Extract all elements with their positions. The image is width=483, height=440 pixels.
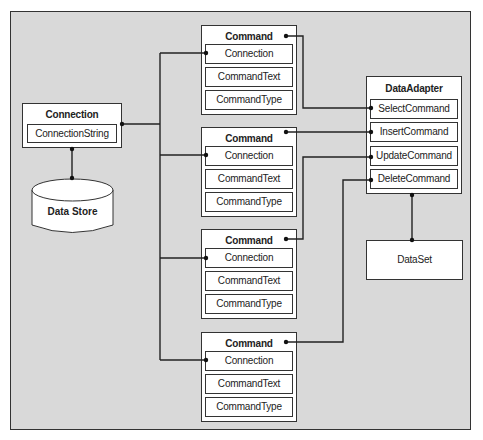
- command-text-field: CommandText: [205, 169, 293, 189]
- update-command-field: UpdateCommand: [370, 146, 458, 166]
- command-connection-field: Connection: [205, 146, 293, 166]
- command-title: Command: [202, 133, 296, 144]
- command-type-field: CommandType: [205, 90, 293, 110]
- data-adapter-title: DataAdapter: [367, 83, 461, 94]
- command-text-field: CommandText: [205, 271, 293, 291]
- connection-string-field: ConnectionString: [27, 124, 117, 143]
- command-type-field: CommandType: [205, 397, 293, 417]
- command-box-4: Command Connection CommandText CommandTy…: [201, 332, 297, 422]
- command-text-field: CommandText: [205, 374, 293, 394]
- connection-title: Connection: [23, 109, 121, 120]
- command-box-3: Command Connection CommandText CommandTy…: [201, 229, 297, 319]
- select-command-field: SelectCommand: [370, 99, 458, 119]
- data-store-label: Data Store: [32, 206, 113, 217]
- command-connection-field: Connection: [205, 248, 293, 268]
- command-title: Command: [202, 338, 296, 349]
- connection-box: Connection ConnectionString: [22, 103, 122, 148]
- insert-command-field: InsertCommand: [370, 122, 458, 142]
- command-connection-field: Connection: [205, 351, 293, 371]
- command-type-field: CommandType: [205, 294, 293, 314]
- command-box-2: Command Connection CommandText CommandTy…: [201, 127, 297, 217]
- data-set-box: DataSet: [366, 240, 463, 280]
- command-title: Command: [202, 31, 296, 42]
- data-adapter-box: DataAdapter SelectCommand InsertCommand …: [366, 76, 462, 194]
- command-type-field: CommandType: [205, 192, 293, 212]
- command-text-field: CommandText: [205, 67, 293, 87]
- delete-command-field: DeleteCommand: [370, 169, 458, 189]
- data-set-label: DataSet: [367, 254, 462, 265]
- command-connection-field: Connection: [205, 44, 293, 64]
- command-title: Command: [202, 235, 296, 246]
- command-box-1: Command Connection CommandText CommandTy…: [201, 25, 297, 115]
